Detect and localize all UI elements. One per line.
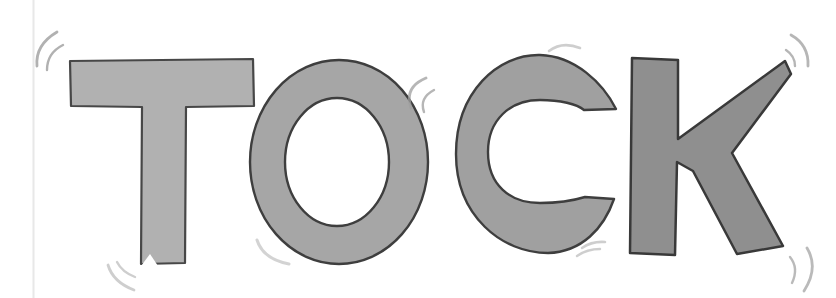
vibration-mark-t-bottom-left — [108, 262, 135, 290]
letter-c — [456, 55, 616, 253]
letter-k-shape — [630, 58, 791, 255]
letter-c-shape — [456, 55, 616, 253]
letter-o — [250, 60, 428, 264]
vibration-mark-t-top-left — [37, 32, 63, 70]
letter-t — [70, 59, 254, 266]
illustration-canvas: TOCK — [0, 0, 836, 298]
vibration-mark-k-bottom-right — [790, 248, 812, 291]
letter-t-shape — [70, 59, 254, 264]
vibration-mark-k-top-right — [786, 35, 808, 66]
vibration-mark-c-top-right — [549, 45, 580, 51]
tock-drawing — [0, 0, 836, 298]
letter-o-shape — [250, 60, 428, 264]
letter-k — [630, 58, 791, 255]
